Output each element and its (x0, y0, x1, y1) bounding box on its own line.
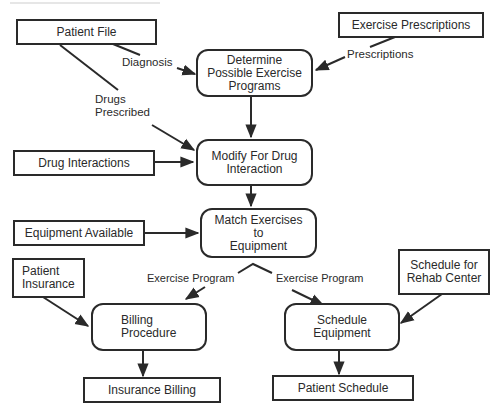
edge-insurance-billing (43, 297, 88, 326)
flow-label-exercise-program-right: Exercise Program (276, 272, 363, 284)
edge-drugs-arrow (152, 125, 194, 150)
determine-programs-label: Determine Possible Exercise Programs (207, 54, 302, 93)
process-schedule-equipment: Schedule Equipment (284, 303, 400, 351)
edge-prescriptions-top (370, 37, 395, 47)
entity-patient-file: Patient File (16, 19, 157, 45)
entity-equipment-available: Equipment Available (13, 220, 145, 246)
edge-prescriptions-arrow (316, 57, 345, 70)
process-determine-programs: Determine Possible Exercise Programs (196, 49, 313, 97)
edge-match-split (238, 264, 272, 273)
patient-insurance-label: Patient Insurance (22, 265, 75, 291)
equipment-available-label: Equipment Available (25, 227, 134, 240)
drug-interactions-label: Drug Interactions (38, 157, 129, 170)
edge-diagnosis-arrow (177, 68, 195, 74)
match-exercises-label: Match Exercises to Equipment (214, 214, 302, 253)
patient-schedule-label: Patient Schedule (298, 382, 389, 395)
entity-patient-insurance: Patient Insurance (12, 258, 85, 298)
edge-diagnosis (113, 44, 140, 55)
entity-schedule-rehab: Schedule for Rehab Center (398, 249, 490, 295)
exercise-prescriptions-label: Exercise Prescriptions (352, 19, 471, 32)
edge-drugs-top (60, 45, 118, 90)
edge-exercise-billing (186, 287, 205, 299)
schedule-rehab-label: Schedule for Rehab Center (407, 259, 482, 285)
entity-drug-interactions: Drug Interactions (13, 150, 155, 176)
billing-procedure-label: Billing Procedure (121, 314, 176, 340)
insurance-billing-label: Insurance Billing (108, 384, 196, 397)
process-billing-procedure: Billing Procedure (91, 303, 207, 351)
patient-file-label: Patient File (56, 26, 116, 39)
process-modify-drug: Modify For Drug Interaction (196, 139, 313, 186)
flow-label-drugs-prescribed: Drugs Prescribed (95, 93, 150, 119)
modify-drug-label: Modify For Drug Interaction (211, 150, 297, 176)
flow-label-exercise-program-left: Exercise Program (147, 272, 234, 284)
entity-exercise-prescriptions: Exercise Prescriptions (338, 12, 484, 38)
flow-label-diagnosis: Diagnosis (122, 56, 173, 68)
schedule-equipment-label: Schedule Equipment (313, 314, 370, 340)
entity-insurance-billing: Insurance Billing (83, 377, 221, 403)
process-match-exercises: Match Exercises to Equipment (200, 208, 317, 258)
flow-label-prescriptions: Prescriptions (347, 48, 413, 60)
edge-rehab-schedule (401, 294, 442, 323)
entity-patient-schedule: Patient Schedule (272, 375, 414, 401)
